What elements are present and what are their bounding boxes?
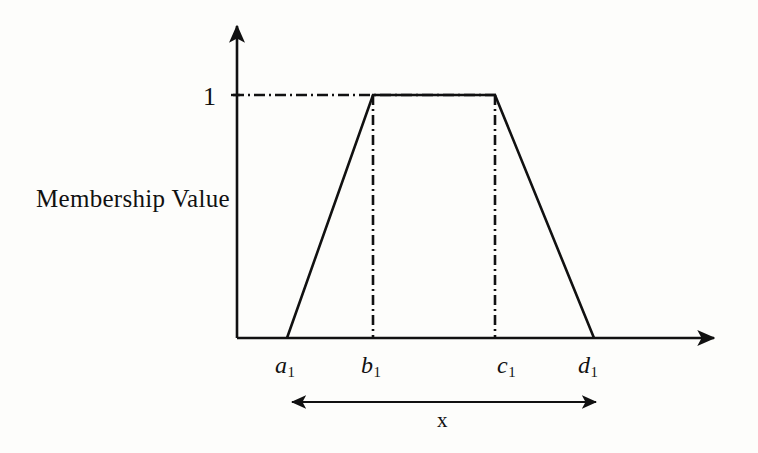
- param-sub-a: 1: [288, 364, 295, 380]
- y-axis-title: Membership Value: [36, 186, 230, 211]
- trapezoidal-membership-function-figure: 1 Membership Value a1 b1 c1 d1 x: [0, 0, 758, 453]
- param-base-b: b: [361, 352, 373, 378]
- param-sub-b: 1: [374, 364, 381, 380]
- x-axis-label-b1: b1: [361, 353, 381, 380]
- x-axis-label-d1: d1: [578, 353, 598, 380]
- x-axis-label-a1: a1: [275, 353, 295, 380]
- param-sub-d: 1: [591, 364, 598, 380]
- x-dimension-label: x: [437, 410, 448, 431]
- param-base-a: a: [275, 352, 287, 378]
- trapezoid-membership-curve: [287, 95, 594, 338]
- param-base-d: d: [578, 352, 590, 378]
- figure-canvas: [0, 0, 758, 453]
- x-axis-label-c1: c1: [497, 353, 516, 380]
- param-base-c: c: [497, 352, 508, 378]
- y-axis-tick-label-one: 1: [203, 84, 216, 110]
- param-sub-c: 1: [508, 364, 515, 380]
